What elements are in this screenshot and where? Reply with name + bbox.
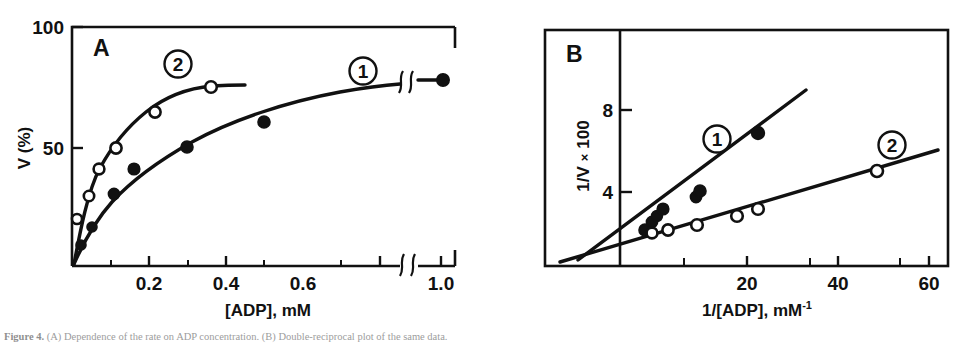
panel-a-label: A [93, 35, 110, 61]
panel-b-curve-label-2-text: 2 [887, 135, 898, 156]
panel-b-y-axis-title-times: × [577, 153, 592, 161]
panel-b-ytick-4: 4 [602, 182, 613, 203]
panel-b-curve-label-1-text: 1 [712, 129, 723, 150]
panel-b-ytick-8: 8 [602, 100, 613, 121]
panel-b-curve-label-1: 1 [704, 126, 731, 153]
panel-b: 1 2 B 8 4 1/V×100 20 40 60 1/ [545, 30, 948, 320]
panel-b-y-ticks [620, 110, 632, 192]
panel-b-x-axis-title-sup: -1 [802, 299, 812, 311]
panel-a-y-ticks [72, 27, 83, 148]
svg-text:1/V×100: 1/V×100 [574, 120, 593, 192]
panel-a-x-ticks [111, 256, 441, 266]
figure-caption: Figure 4. (A) Dependence of the rate on … [4, 330, 964, 346]
panel-a-curve-break-icon [399, 71, 413, 93]
panel-b-x-axis-title: 1/[ADP], mM-1 [702, 299, 812, 320]
panel-a-curve-1-left [74, 84, 400, 264]
panel-a-xtick-02: 0.2 [136, 273, 162, 294]
panel-b-y-axis-title-pre: 1/V [574, 166, 593, 192]
figure-caption-text: (A) Dependence of the rate on ADP concen… [44, 331, 447, 342]
panel-a-x-axis-break-icon [400, 254, 415, 276]
panel-a-series-2-markers [72, 81, 217, 224]
panel-a-series-1-markers [76, 74, 449, 250]
panel-b-x-axis-title-main: 1/[ADP], mM [702, 301, 802, 320]
panel-b-curve-label-2: 2 [879, 132, 906, 159]
panel-b-xtick-20: 20 [736, 273, 757, 294]
panel-a: 2 1 A 100 50 V (%) 0.2 0.4 0.6 1.0 [ADP]… [15, 17, 455, 320]
panel-b-xtick-60: 60 [918, 273, 939, 294]
panel-a-xtick-10: 1.0 [428, 273, 454, 294]
panel-a-curve-label-1-text: 1 [358, 61, 369, 82]
panel-b-x-ticks [684, 256, 929, 266]
panel-a-ytick-100: 100 [32, 17, 64, 38]
figure-svg: 2 1 A 100 50 V (%) 0.2 0.4 0.6 1.0 [ADP]… [0, 0, 969, 346]
panel-b-label: B [566, 41, 583, 67]
panel-a-y-axis-title: V (%) [15, 127, 34, 170]
panel-a-xtick-04: 0.4 [213, 273, 240, 294]
panel-a-x-axis-title: [ADP], mM [225, 301, 311, 320]
panel-a-xtick-06: 0.6 [290, 273, 316, 294]
panel-b-y-axis-title: 1/V×100 [574, 120, 593, 192]
panel-a-ytick-50: 50 [43, 138, 64, 159]
panel-a-curve-label-1: 1 [350, 58, 377, 85]
panel-a-curve-label-2: 2 [165, 51, 192, 78]
panel-b-y-axis-title-post: 100 [574, 120, 593, 148]
figure-root: 2 1 A 100 50 V (%) 0.2 0.4 0.6 1.0 [ADP]… [0, 0, 969, 346]
panel-b-xtick-40: 40 [827, 273, 848, 294]
panel-a-curve-label-2-text: 2 [173, 54, 184, 75]
figure-caption-prefix: Figure 4. [4, 331, 44, 342]
panel-a-frame [72, 27, 455, 266]
